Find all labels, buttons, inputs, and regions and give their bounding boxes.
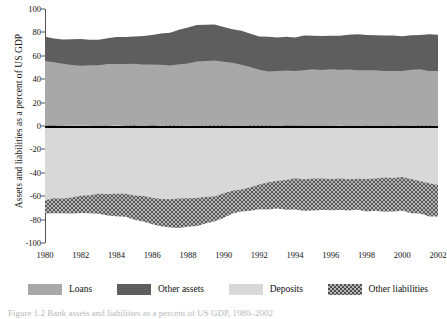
x-tick-label: 1994	[287, 250, 304, 260]
x-tick-label: 1996	[322, 250, 339, 260]
y-tick-label: -40	[30, 168, 45, 178]
zero-baseline	[45, 126, 438, 128]
legend-item-deposits[interactable]: Deposits	[229, 284, 303, 295]
legend-item-other_liabilities[interactable]: Other liabilities	[328, 284, 428, 295]
y-tick-label: 80	[33, 27, 46, 37]
legend-item-other_assets[interactable]: Other assets	[117, 284, 204, 295]
x-tick-label: 1990	[215, 250, 232, 260]
legend-label-other_assets: Other assets	[158, 284, 204, 294]
x-ticks: 1980198219841986198819901992199419961998…	[45, 250, 438, 264]
y-tick-label: 0	[37, 121, 45, 131]
figure-caption: Figure 1.2 Bank assets and liabilities a…	[8, 308, 438, 318]
x-tick-label: 2000	[394, 250, 411, 260]
x-tick-label: 1986	[144, 250, 161, 260]
y-tick-label: 100	[28, 4, 45, 14]
plot-area: 100806040200-20-40-60-80-100	[45, 9, 438, 243]
legend-swatch-other_assets	[117, 284, 151, 295]
x-tick-label: 1998	[358, 250, 375, 260]
y-tick-label: -80	[30, 215, 45, 225]
y-tick-label: -20	[30, 144, 45, 154]
y-tick-label: 60	[33, 51, 46, 61]
chart-legend: LoansOther assetsDepositsOther liabiliti…	[28, 281, 428, 297]
legend-swatch-other_liabilities	[328, 284, 362, 295]
y-tick-label: 40	[33, 74, 46, 84]
x-tick-label: 1988	[179, 250, 196, 260]
legend-swatch-loans	[28, 284, 62, 295]
x-tick-label: 1984	[108, 250, 125, 260]
legend-label-other_liabilities: Other liabilities	[369, 284, 428, 294]
legend-label-deposits: Deposits	[270, 284, 303, 294]
y-tick-label: -100	[25, 238, 45, 248]
legend-label-loans: Loans	[69, 284, 92, 294]
legend-item-loans[interactable]: Loans	[28, 284, 92, 295]
x-tick-label: 1980	[37, 250, 54, 260]
y-tick-label: -60	[30, 191, 45, 201]
y-tick-label: 20	[33, 98, 46, 108]
x-tick-label: 1982	[72, 250, 89, 260]
y-axis-label: Assets and liabilities as a percent of U…	[14, 1, 24, 241]
x-tick-label: 1992	[251, 250, 268, 260]
legend-swatch-deposits	[229, 284, 263, 295]
x-tick-label: 2002	[430, 250, 447, 260]
